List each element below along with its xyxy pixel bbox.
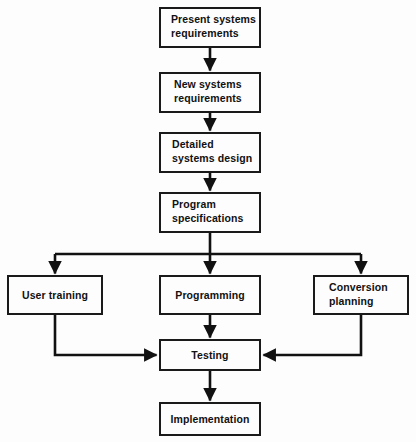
node-user-training: User training [8,276,102,314]
node-label-line1: Program [172,198,216,210]
node-conversion-planning: Conversion planning [314,276,408,314]
node-label-line1: Programming [175,289,244,301]
connector-user-training-to-testing [55,314,157,355]
node-label-line2: requirements [171,27,239,39]
node-label-line1: Present systems [171,13,256,25]
connector-conversion-to-testing [264,314,362,355]
node-label-line1: Conversion [329,281,388,293]
node-implementation: Implementation [160,403,260,435]
node-label-line2: planning [329,295,374,307]
node-label-line1: Detailed [172,138,214,150]
node-testing: Testing [160,340,260,370]
node-detailed-systems-design: Detailed systems design [160,133,260,172]
node-label-line1: User training [22,289,88,301]
node-label-line2: systems design [172,152,252,164]
node-label-line1: Implementation [171,413,250,425]
node-label-line2: specifications [172,212,243,224]
flowchart-diagram: Present systems requirements New systems… [0,0,416,442]
node-program-specifications: Program specifications [160,193,260,232]
node-label-line1: Testing [191,349,228,361]
node-label-line1: New systems [174,78,242,90]
node-present-systems-requirements: Present systems requirements [160,8,260,47]
flowchart-canvas: Present systems requirements New systems… [0,0,416,442]
node-label-line2: requirements [174,92,242,104]
node-programming: Programming [160,276,260,314]
node-new-systems-requirements: New systems requirements [160,73,260,112]
